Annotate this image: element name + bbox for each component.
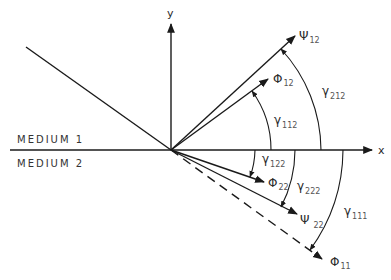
medium-2-label: MEDIUM 2 xyxy=(17,158,84,169)
phi12-label: Φ12 xyxy=(273,72,294,88)
gamma222-label: γ222 xyxy=(297,179,320,196)
gamma111-arc xyxy=(310,150,343,250)
psi12-label: Ψ12 xyxy=(299,29,320,45)
gamma112-arc xyxy=(252,91,271,150)
phi22-ray xyxy=(171,150,264,182)
medium-1-label: MEDIUM 1 xyxy=(17,134,84,145)
phi11-ray xyxy=(171,150,322,259)
psi22-label: Ψ22 xyxy=(300,213,324,230)
y-axis-label: y xyxy=(167,7,174,20)
phi11-label: Φ11 xyxy=(330,255,351,271)
gamma222-arc xyxy=(281,150,295,207)
gamma111-label: γ111 xyxy=(344,204,367,221)
psi12-ray xyxy=(171,36,295,150)
phi12-ray xyxy=(171,79,268,150)
gamma212-arc xyxy=(281,49,321,150)
gamma112-label: γ112 xyxy=(274,113,297,130)
gamma122-arc xyxy=(250,150,255,177)
x-axis-label: x xyxy=(378,144,385,157)
gamma122-label: γ122 xyxy=(262,152,285,169)
phi22-label: Φ22 xyxy=(268,176,289,192)
gamma212-label: γ212 xyxy=(322,84,345,101)
refraction-diagram: x y MEDIUM 1 MEDIUM 2 Ψ12 Φ12 Φ22 Ψ22 Φ1… xyxy=(0,0,391,280)
